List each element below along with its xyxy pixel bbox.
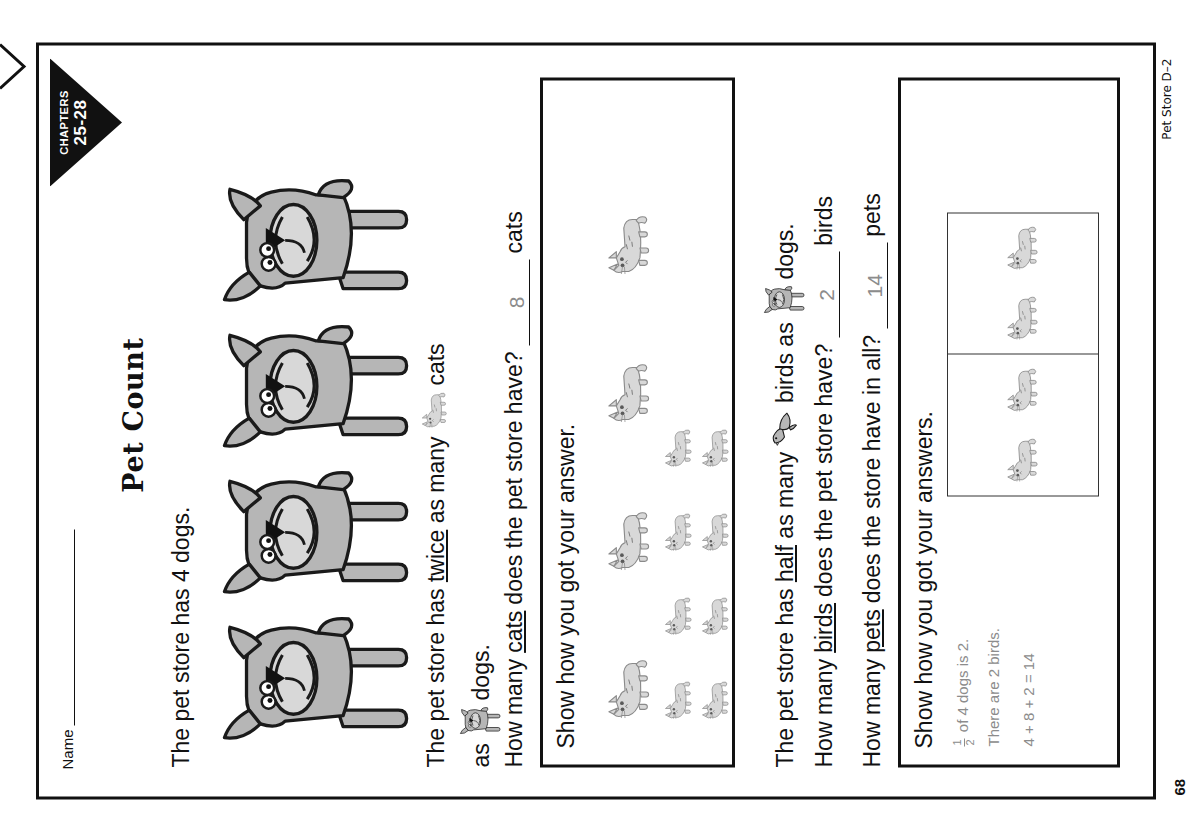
cat-icon xyxy=(700,680,733,720)
cat-icon-pair xyxy=(663,512,733,552)
fraction-denominator: 2 xyxy=(965,738,977,746)
cat-figure xyxy=(700,428,729,468)
name-input-rule[interactable] xyxy=(62,529,75,725)
dog-figure xyxy=(456,706,502,736)
cat-icon xyxy=(420,391,456,429)
cats-answer-blank[interactable]: 8 xyxy=(505,259,530,345)
bird-icon xyxy=(769,409,806,445)
dog-icon xyxy=(205,175,419,313)
pets-work-lines: 1 2 of 4 dogs is 2. There are 2 birds. 4… xyxy=(951,628,1041,746)
cats-answer-unit: cats xyxy=(498,211,530,253)
cat-figure xyxy=(1005,225,1038,271)
dog-icon xyxy=(205,467,419,605)
cat-icon xyxy=(663,596,696,636)
pets-work-line1-rest: of 4 dogs is 2. xyxy=(954,638,971,736)
cats-statement-part4: as xyxy=(468,743,494,767)
birds-statement-half: half xyxy=(772,545,798,582)
pets-work-line2: There are 2 birds. xyxy=(982,628,1005,746)
cat-icon xyxy=(1005,225,1042,271)
pets-answer-unit: pets xyxy=(856,193,888,236)
birds-answer-blank[interactable]: 2 xyxy=(815,251,840,337)
cat-figure xyxy=(1005,437,1038,483)
dog-icon xyxy=(205,613,419,751)
dog-figure xyxy=(205,467,415,605)
pets-question-row[interactable]: How many pets does the store have in all… xyxy=(856,193,888,767)
dog-figure xyxy=(205,321,415,459)
cats-statement: The pet store has twice as many cats as xyxy=(420,107,510,767)
cats-statement-twice: twice xyxy=(423,529,449,581)
cats-question-keyword: cats xyxy=(498,610,530,652)
cats-work-prompt: Show how you got your answer. xyxy=(553,423,580,748)
dog-figure xyxy=(760,285,806,315)
cat-figure xyxy=(605,658,650,720)
intro-statement: The pet store has 4 dogs. xyxy=(166,506,198,767)
birds-statement-part3: birds as xyxy=(772,322,798,409)
birds-statement: The pet store has half as many birds as … xyxy=(760,67,815,767)
cat-icon xyxy=(1005,437,1042,483)
cats-work-row-large xyxy=(605,214,654,720)
birds-question-keyword: birds xyxy=(808,602,840,652)
birds-statement-part4: dogs. xyxy=(772,223,798,286)
bird-figure xyxy=(769,409,797,445)
name-field-row[interactable]: Name xyxy=(60,529,75,769)
birds-question-tail: does the pet store have? xyxy=(808,343,840,596)
birds-statement-part1: The pet store has xyxy=(772,582,798,767)
cats-work-row-small xyxy=(663,428,733,720)
pets-question-keyword: pets xyxy=(856,609,888,652)
cats-question-lead: How many xyxy=(498,658,530,767)
pets-answer-blank[interactable]: 14 xyxy=(863,242,888,328)
cat-icon xyxy=(663,512,696,552)
worksheet-page: Name CHAPTERS 25-28 Pet Count The pet st… xyxy=(0,0,1196,829)
page-number: 68 xyxy=(1171,778,1188,795)
cat-icon xyxy=(700,512,733,552)
footer-code: Pet Store D–2 xyxy=(1160,58,1174,139)
cats-work-box[interactable]: Show how you got your answer. xyxy=(540,77,735,767)
dog-figure xyxy=(205,175,415,313)
pets-grid-cell xyxy=(948,355,1098,496)
cat-figure xyxy=(605,510,650,572)
chapter-badge-line1: CHAPTERS xyxy=(58,58,71,186)
cats-statement-part2: as many xyxy=(423,436,449,529)
cat-icon-pair xyxy=(663,680,733,720)
cat-figure xyxy=(700,680,729,720)
cat-figure xyxy=(700,512,729,552)
pets-work-box[interactable]: Show how you got your answers. 1 2 of 4 … xyxy=(898,77,1120,767)
cats-statement-part5: dogs. xyxy=(468,644,494,707)
dog-figure xyxy=(205,613,415,751)
cat-figure xyxy=(663,596,692,636)
one-half-fraction: 1 2 xyxy=(952,738,976,746)
cat-icon xyxy=(1005,367,1042,413)
cat-icon xyxy=(605,362,654,424)
cat-figure xyxy=(605,362,650,424)
cat-icon xyxy=(605,214,654,276)
pets-work-line3: 4 + 8 + 2 = 14 xyxy=(1017,628,1040,746)
chapter-badge-text: CHAPTERS 25-28 xyxy=(58,58,90,186)
cat-figure xyxy=(1005,295,1038,341)
cats-question-row[interactable]: How many cats does the pet store have? 8… xyxy=(498,211,530,767)
cat-figure xyxy=(605,214,650,276)
cat-figure xyxy=(420,391,447,429)
pets-grid-cell xyxy=(948,213,1098,355)
dog-illustration-row xyxy=(205,175,419,751)
pets-work-line1: 1 2 of 4 dogs is 2. xyxy=(951,628,976,746)
birds-answer-unit: birds xyxy=(808,195,840,245)
name-label: Name xyxy=(60,729,75,769)
chevron-down-icon xyxy=(0,42,28,90)
cat-icon xyxy=(700,596,733,636)
cat-icon xyxy=(663,680,696,720)
birds-question-row[interactable]: How many birds does the pet store have? … xyxy=(808,195,840,767)
pets-work-prompt: Show how you got your answers. xyxy=(911,410,938,748)
cat-icon-pair xyxy=(663,428,733,468)
cats-statement-part1: The pet store has xyxy=(423,582,449,767)
cat-figure xyxy=(1005,367,1038,413)
cats-question-tail: does the pet store have? xyxy=(498,351,530,604)
pets-question-lead: How many xyxy=(856,658,888,767)
dog-icon xyxy=(205,321,419,459)
pets-question-tail: does the store have in all? xyxy=(856,334,888,603)
dog-icon xyxy=(760,285,815,315)
worksheet-canvas: Name CHAPTERS 25-28 Pet Count The pet st… xyxy=(0,0,1196,829)
chapter-badge: CHAPTERS 25-28 xyxy=(50,58,122,186)
cats-statement-part3: cats xyxy=(423,343,449,392)
cat-icon xyxy=(1005,295,1042,341)
cat-figure xyxy=(663,428,692,468)
